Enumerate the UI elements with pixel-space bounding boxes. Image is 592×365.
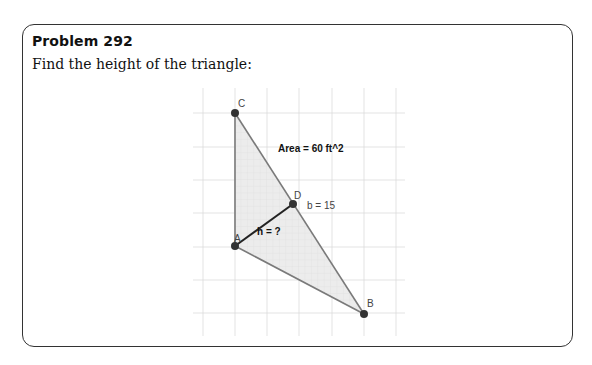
- base-label: b = 15: [307, 200, 336, 211]
- triangle-figure: C D A B Area = 60 ft^2 b = 15 h = ?: [0, 0, 592, 365]
- label-a: A: [234, 233, 241, 244]
- height-label: h = ?: [257, 226, 281, 237]
- label-d: D: [294, 190, 301, 201]
- area-label: Area = 60 ft^2: [278, 143, 344, 154]
- label-c: C: [238, 98, 245, 109]
- point-b: [360, 310, 368, 318]
- point-c: [231, 109, 239, 117]
- label-b: B: [367, 298, 374, 309]
- point-d: [289, 200, 297, 208]
